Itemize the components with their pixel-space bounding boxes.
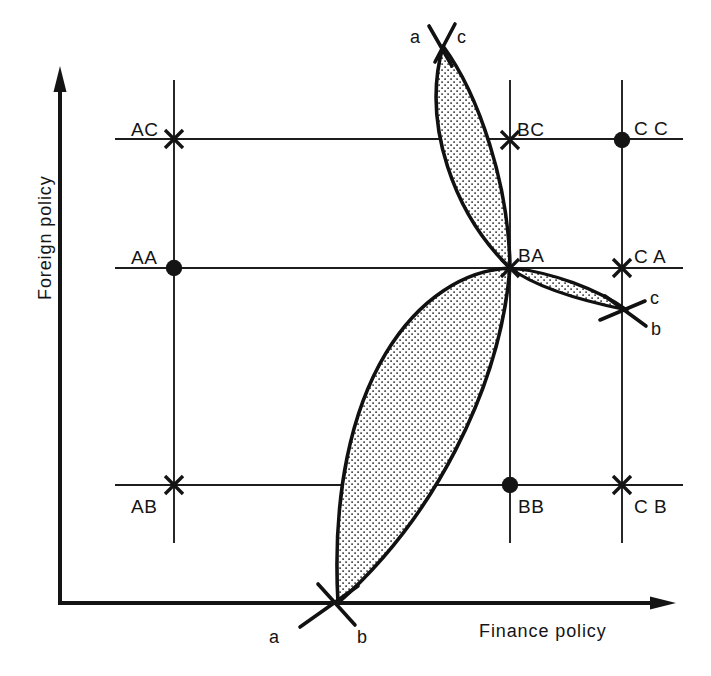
node-label-bb: BB [518, 497, 544, 516]
y-axis-label: Foreign policy [36, 175, 54, 300]
marker-dot-cc [614, 132, 630, 148]
node-label-ac: AC [131, 120, 158, 139]
shaded-region-upper [436, 46, 510, 268]
shaded-region-lower [337, 268, 510, 603]
y-axis-arrowhead [54, 66, 67, 92]
node-label-ca: C A [634, 247, 666, 266]
marker-dot-bb [502, 477, 518, 493]
diagram-svg [0, 0, 711, 676]
x-axis-label: Finance policy [479, 622, 607, 640]
shaded-regions [337, 46, 627, 603]
curve-label-right-b: b [651, 320, 661, 338]
curve-label-bottom-a: a [269, 628, 279, 646]
curve-label-top-c: c [457, 28, 466, 46]
curve-label-top-a: a [410, 28, 420, 46]
figure-canvas: Foreign policy Finance policy AC BC C C … [0, 0, 711, 676]
node-label-ba: BA [518, 246, 544, 265]
shaded-region-right [510, 268, 627, 310]
node-label-cb: C B [634, 497, 667, 516]
curve-label-right-c: c [650, 289, 659, 307]
node-label-bc: BC [517, 120, 544, 139]
x-axis-arrowhead [650, 597, 676, 610]
node-label-aa: AA [131, 248, 157, 267]
curve-label-bottom-b: b [357, 628, 367, 646]
curve-tail-right-b [605, 296, 646, 326]
node-label-ab: AB [131, 497, 157, 516]
marker-dot-aa [166, 260, 182, 276]
node-label-cc: C C [634, 119, 668, 138]
